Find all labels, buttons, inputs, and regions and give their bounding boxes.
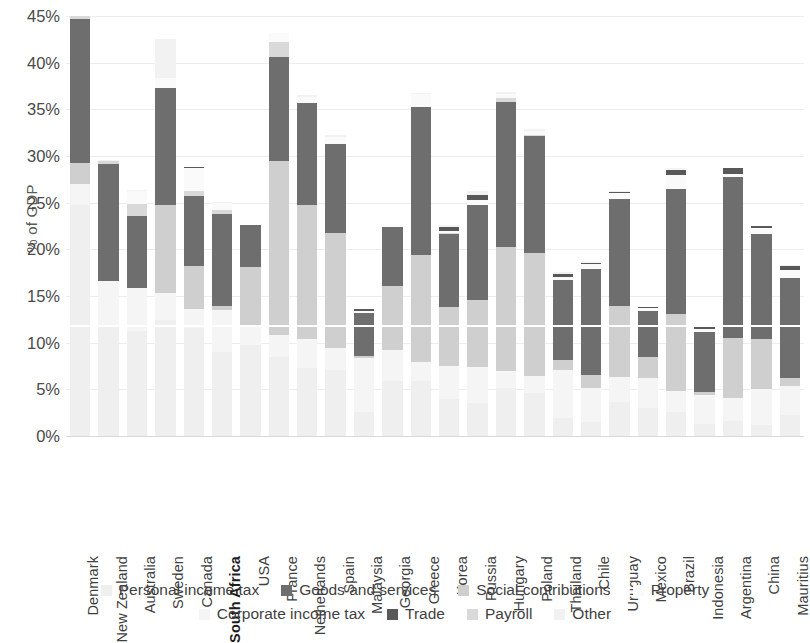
legend-item[interactable]: Property <box>633 581 710 599</box>
bar-segment[interactable] <box>780 266 800 270</box>
legend-item[interactable]: Corporate income tax <box>199 605 365 623</box>
bar-column[interactable] <box>666 16 686 436</box>
bar-column[interactable] <box>411 16 431 436</box>
bar-segment[interactable] <box>467 300 487 367</box>
bar-segment[interactable] <box>496 92 516 95</box>
bar-segment[interactable] <box>411 93 431 95</box>
bar-segment[interactable] <box>325 348 345 369</box>
bar-segment[interactable] <box>467 367 487 403</box>
bar-segment[interactable] <box>723 174 743 178</box>
bar-column[interactable] <box>212 16 232 436</box>
bar-column[interactable] <box>524 16 544 436</box>
bar-segment[interactable] <box>184 196 204 266</box>
bar-segment[interactable] <box>240 267 260 325</box>
bar-segment[interactable] <box>212 352 232 436</box>
bar-segment[interactable] <box>439 234 459 307</box>
bar-segment[interactable] <box>70 163 90 184</box>
bar-segment[interactable] <box>240 345 260 436</box>
bar-segment[interactable] <box>354 412 374 436</box>
bar-segment[interactable] <box>297 368 317 436</box>
bar-segment[interactable] <box>638 307 658 308</box>
stacked-bar[interactable] <box>382 225 402 436</box>
stacked-bar[interactable] <box>553 272 573 436</box>
bar-segment[interactable] <box>269 335 289 356</box>
bar-segment[interactable] <box>297 95 317 97</box>
bar-column[interactable] <box>780 16 800 436</box>
bar-segment[interactable] <box>269 33 289 42</box>
stacked-bar[interactable] <box>269 33 289 436</box>
bar-segment[interactable] <box>411 255 431 362</box>
bar-segment[interactable] <box>70 205 90 436</box>
stacked-bar[interactable] <box>496 92 516 436</box>
bar-segment[interactable] <box>212 310 232 352</box>
bar-segment[interactable] <box>666 168 686 170</box>
stacked-bar[interactable] <box>666 168 686 436</box>
bar-segment[interactable] <box>127 216 147 288</box>
bar-segment[interactable] <box>780 278 800 378</box>
bar-column[interactable] <box>723 16 743 436</box>
bar-segment[interactable] <box>496 102 516 248</box>
bar-segment[interactable] <box>609 199 629 306</box>
stacked-bar[interactable] <box>297 95 317 436</box>
bar-segment[interactable] <box>382 286 402 350</box>
bar-segment[interactable] <box>98 164 118 281</box>
bar-segment[interactable] <box>127 191 147 204</box>
stacked-bar[interactable] <box>467 191 487 436</box>
bar-segment[interactable] <box>496 247 516 370</box>
bar-segment[interactable] <box>184 328 204 436</box>
bar-segment[interactable] <box>723 338 743 398</box>
bar-segment[interactable] <box>240 225 260 267</box>
bar-segment[interactable] <box>780 386 800 416</box>
bar-segment[interactable] <box>297 205 317 338</box>
legend-item[interactable]: Social contributions <box>458 581 610 599</box>
bar-segment[interactable] <box>439 307 459 366</box>
bar-segment[interactable] <box>439 231 459 234</box>
bar-segment[interactable] <box>325 137 345 144</box>
legend-item[interactable]: Goods and services <box>281 581 436 599</box>
stacked-bar[interactable] <box>354 309 374 436</box>
bar-segment[interactable] <box>382 225 402 227</box>
bar-segment[interactable] <box>553 370 573 419</box>
bar-segment[interactable] <box>439 233 459 234</box>
stacked-bar[interactable] <box>723 168 743 436</box>
bar-segment[interactable] <box>439 399 459 436</box>
bar-segment[interactable] <box>666 189 686 314</box>
bar-segment[interactable] <box>439 225 459 227</box>
bar-segment[interactable] <box>666 170 686 175</box>
bar-segment[interactable] <box>212 202 232 203</box>
bar-segment[interactable] <box>524 131 544 135</box>
stacked-bar[interactable] <box>609 191 629 436</box>
bar-segment[interactable] <box>694 392 714 395</box>
bar-segment[interactable] <box>70 16 90 19</box>
stacked-bar[interactable] <box>212 202 232 436</box>
bar-segment[interactable] <box>751 228 771 235</box>
bar-segment[interactable] <box>411 381 431 436</box>
bar-segment[interactable] <box>638 357 658 378</box>
stacked-bar[interactable] <box>70 16 90 436</box>
bar-column[interactable] <box>496 16 516 436</box>
stacked-bar[interactable] <box>439 225 459 436</box>
bar-column[interactable] <box>184 16 204 436</box>
bar-segment[interactable] <box>638 378 658 408</box>
bar-segment[interactable] <box>553 418 573 436</box>
bar-segment[interactable] <box>751 234 771 339</box>
bar-column[interactable] <box>127 16 147 436</box>
legend-item[interactable]: Payroll <box>467 605 532 623</box>
bar-segment[interactable] <box>723 398 743 421</box>
bar-segment[interactable] <box>212 306 232 310</box>
bar-segment[interactable] <box>382 227 402 286</box>
bar-segment[interactable] <box>581 269 601 375</box>
bar-segment[interactable] <box>751 389 771 424</box>
bar-segment[interactable] <box>325 144 345 234</box>
bar-segment[interactable] <box>666 412 686 436</box>
bar-segment[interactable] <box>524 129 544 131</box>
bar-segment[interactable] <box>467 205 487 300</box>
bar-segment[interactable] <box>354 311 374 313</box>
bar-column[interactable] <box>638 16 658 436</box>
bar-segment[interactable] <box>524 376 544 393</box>
bar-segment[interactable] <box>184 167 204 168</box>
stacked-bar[interactable] <box>751 226 771 436</box>
legend-item[interactable]: Personal income tax <box>101 581 259 599</box>
stacked-bar[interactable] <box>524 129 544 436</box>
bar-segment[interactable] <box>694 329 714 333</box>
